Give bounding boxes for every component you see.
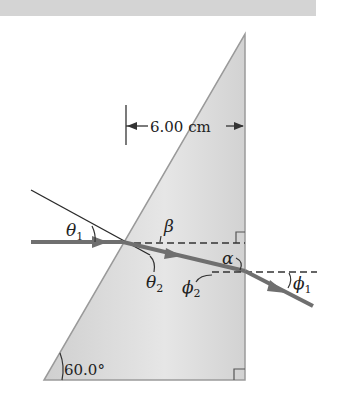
- dimension-label: 6.00 cm: [150, 118, 211, 136]
- phi1-label: ϕ1: [293, 273, 312, 296]
- phi1-arc: [288, 273, 291, 288]
- prism: [44, 34, 245, 380]
- beta-label: β: [163, 216, 174, 236]
- dimension-arrow-left: [127, 122, 137, 130]
- alpha-label: α: [222, 248, 234, 268]
- theta1-label: θ1: [66, 220, 83, 243]
- prism-diagram: 6.00 cm θ1 β θ2 α ϕ2 ϕ1 60.0°: [0, 0, 337, 406]
- apex-angle-label: 60.0°: [64, 361, 105, 379]
- incident-arrow: [92, 236, 108, 248]
- exit-arrow: [267, 280, 286, 293]
